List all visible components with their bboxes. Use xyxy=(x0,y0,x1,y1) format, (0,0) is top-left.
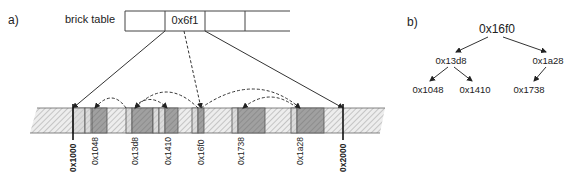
address-label-0x1000: 0x1000 xyxy=(68,143,78,172)
tree-node-0x1410: 0x1410 xyxy=(459,84,490,95)
brick-table-title: brick table xyxy=(65,13,115,25)
tree-node-0x13d8: 0x13d8 xyxy=(435,55,466,66)
address-label-0x13d8: 0x13d8 xyxy=(130,137,140,165)
brick-table-cell-0x6f1: 0x6f1 xyxy=(172,14,199,26)
tree-node-0x1a28: 0x1a28 xyxy=(532,55,563,66)
range-start-line xyxy=(73,31,165,108)
panel-b-label: b) xyxy=(407,15,418,29)
diagram-canvas: a) brick table 0x6f1 xyxy=(0,0,577,179)
address-label-0x1048: 0x1048 xyxy=(90,137,100,165)
address-label-0x16f0: 0x16f0 xyxy=(196,139,206,165)
address-label-0x2000: 0x2000 xyxy=(338,143,348,172)
address-labels: 0x1000 0x1048 0x13d8 0x1410 0x16f0 0x173… xyxy=(68,137,348,172)
tree-node-root: 0x16f0 xyxy=(479,22,515,36)
address-label-0x1a28: 0x1a28 xyxy=(295,137,305,165)
search-tree: 0x16f0 0x13d8 0x1a28 0x1048 0x1410 0x173… xyxy=(412,22,563,95)
tree-node-0x1738: 0x1738 xyxy=(513,84,544,95)
address-label-0x1410: 0x1410 xyxy=(163,137,173,165)
panel-a-label: a) xyxy=(8,13,19,27)
brick-table xyxy=(125,11,290,31)
tree-node-0x1048: 0x1048 xyxy=(412,84,443,95)
address-label-0x1738: 0x1738 xyxy=(236,137,246,165)
range-end-line xyxy=(205,31,343,108)
root-pointer-line xyxy=(184,31,201,108)
